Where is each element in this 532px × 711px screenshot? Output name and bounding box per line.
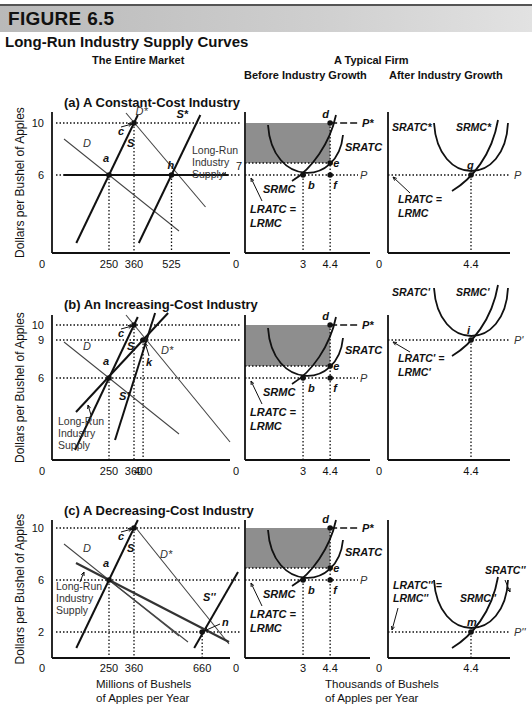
panel-a-point-a xyxy=(106,172,112,178)
panel-c-firm-after-price-label: P'' xyxy=(514,626,526,638)
panel-b-point-b xyxy=(300,375,306,381)
panel-c-point-label-n: n xyxy=(222,616,229,628)
panel-c-point-label-d: d xyxy=(322,513,329,525)
panel-b-point-c xyxy=(131,322,137,328)
panel-b-label-LRATC: LRATC = xyxy=(250,406,297,418)
panel-b-arrow-LRATC xyxy=(251,381,262,404)
panel-a-label-Pstar: P* xyxy=(362,117,374,129)
panel-a-curve-D xyxy=(64,139,179,231)
panel-b-label-lrs-3: Supply xyxy=(58,439,91,451)
panel-b-label-SRMC: SRMC xyxy=(263,386,296,398)
panel-b-point-i xyxy=(468,337,474,343)
panel-a-label-lrs-2: Industry xyxy=(192,156,230,168)
panel-c-market-xtick-360: 360 xyxy=(125,662,143,674)
panel-c-firm-before-xtick-4.4: 4.4 xyxy=(322,662,337,674)
panel-c-market-ytick-2: 2 xyxy=(38,626,44,638)
panel-c-title: (c) A Decreasing-Cost Industry xyxy=(64,503,255,518)
panel-a-point-f xyxy=(327,172,333,178)
panel-a-market-xtick-0: 0 xyxy=(39,258,45,270)
panel-c-label-lrs-3: Supply xyxy=(56,604,89,616)
panel-c-point-f xyxy=(327,577,333,583)
panel-a-market-ytick-10: 10 xyxy=(32,117,44,129)
panel-a-label-SRATC: SRATC xyxy=(345,141,383,153)
panel-c-label-LRATC-after: LRATC'' = xyxy=(393,579,442,591)
panel-c-firm-after-xtick-44: 4.4 xyxy=(463,662,478,674)
panel-a-point-d xyxy=(327,120,333,126)
panel-c-point-label-f: f xyxy=(333,584,338,596)
market-xlabel-line2: of Apples per Year xyxy=(96,692,190,704)
panel-c-curve-D-ext xyxy=(109,580,188,642)
panel-b-firm-before-xtick-3: 3 xyxy=(300,465,306,477)
panel-a-firm-before-xtick-4.4: 4.4 xyxy=(322,258,337,270)
panel-b-point-e xyxy=(327,363,333,369)
panel-c-point-d xyxy=(327,525,333,531)
y-axis-label: Dollars per Bushel of Apples xyxy=(13,514,27,665)
panel-c-point-n xyxy=(199,629,205,635)
panel-b-label-D: D xyxy=(83,340,91,352)
panel-a-point-label-f: f xyxy=(333,179,338,191)
panel-b-label-lrs-1: Long-Run xyxy=(58,415,104,427)
panel-c-point-label-b: b xyxy=(308,584,315,596)
y-axis-label: Dollars per Bushel of Apples xyxy=(13,107,27,258)
market-xlabel-line1: Millions of Bushels xyxy=(96,678,191,690)
panel-c-market-xtick-0: 0 xyxy=(39,662,45,674)
panel-c-point-label-a: a xyxy=(103,557,109,569)
panel-a-label-Sstar: S* xyxy=(177,108,189,120)
panel-a-market-xtick-360: 360 xyxy=(125,258,143,270)
panel-a-label-LRMC-after: LRMC xyxy=(398,207,429,219)
panel-b-label-LRMC: LRMC xyxy=(250,420,283,432)
panel-a-label-LRATC: LRATC = xyxy=(250,203,297,215)
panel-b-point-label-a: a xyxy=(103,355,109,367)
panel-b-label-Pstar: P* xyxy=(362,319,374,331)
panel-c-firm-before-origin: 0 xyxy=(233,662,239,674)
y-axis-label: Dollars per Bushel of Apples xyxy=(13,312,27,463)
panel-b-market-xtick-250: 250 xyxy=(100,465,118,477)
panel-a-point-label-d: d xyxy=(322,108,329,120)
panel-a-firm-before-xtick-3: 3 xyxy=(300,258,306,270)
panel-c-point-label-m: m xyxy=(467,616,477,628)
panel-c-label-P: P xyxy=(360,574,368,586)
panel-c-point-c xyxy=(131,525,137,531)
panel-a-label-S: S xyxy=(127,137,135,149)
panel-b-point-f xyxy=(327,375,333,381)
panel-b-firm-after-price-label: P' xyxy=(514,334,524,346)
panel-b-point-k xyxy=(140,337,146,343)
panel-b-label-LRATC-after: LRATC' = xyxy=(398,352,444,364)
panel-c-point-m xyxy=(468,629,474,635)
panel-c-arrow-LRATC xyxy=(251,583,262,606)
panel-a-label-lrs-3: Supply xyxy=(192,168,225,180)
panel-b-label-lrs-2: Industry xyxy=(58,427,96,439)
panel-a-firm-after-price-label: P xyxy=(514,169,522,181)
panel-b-firm-after-xtick-44: 4.4 xyxy=(463,465,478,477)
panel-a-label-Dstar: D* xyxy=(136,105,149,117)
panel-c-label-Dstar: D* xyxy=(160,548,173,560)
panel-b-point-label-d: d xyxy=(322,310,329,322)
panel-a-firm-after-xtick-0: 0 xyxy=(376,258,382,270)
panel-c-arrow-LRATC-after xyxy=(392,608,398,630)
panel-b-label-Dstar: D* xyxy=(161,344,174,356)
panel-a-firm-before-origin: 0 xyxy=(233,258,239,270)
panel-b-arrow-LRATC-after xyxy=(393,342,410,352)
panel-c-point-a xyxy=(106,577,112,583)
panel-a-label-D: D xyxy=(83,137,91,149)
panel-a-label-P: P xyxy=(360,169,368,181)
panel-b-label-LRMC-after: LRMC' xyxy=(398,366,431,378)
panel-a-title: (a) A Constant-Cost Industry xyxy=(64,95,241,110)
panel-a-point-b xyxy=(300,172,306,178)
panel-a-point-e xyxy=(327,160,333,166)
panel-b-point-d xyxy=(327,322,333,328)
panel-b-point-label-e: e xyxy=(333,360,339,372)
panel-c-point-e xyxy=(327,565,333,571)
panel-c-market-ytick-6: 6 xyxy=(38,574,44,586)
panel-b-label-SRATC: SRATC xyxy=(345,344,383,356)
panel-a-market-xtick-250: 250 xyxy=(100,258,118,270)
panel-b-firm-before-origin: 0 xyxy=(233,465,239,477)
panel-c-label-SRMC: SRMC xyxy=(263,588,296,600)
figure-canvas: Dollars per Bushel of ApplesDollars per … xyxy=(0,0,532,711)
firm-xlabel-line1: Thousands of Bushels xyxy=(325,678,439,690)
panel-a-point-label-a: a xyxy=(103,152,109,164)
panel-c-label-SRATC-after: SRATC'' xyxy=(485,564,526,576)
panel-a-label-SRATC-after: SRATC* xyxy=(392,121,432,133)
panel-c-curve-Sdoubleprime xyxy=(194,572,238,648)
panel-b-point-label-f: f xyxy=(333,382,338,394)
